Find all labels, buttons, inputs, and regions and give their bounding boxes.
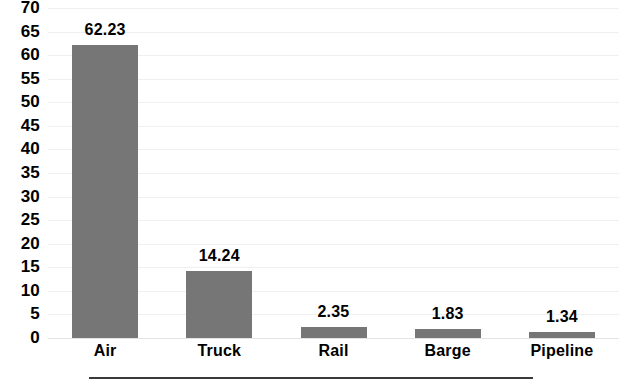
y-axis: 7065605550454035302520151050 bbox=[0, 0, 46, 386]
bar-value-label: 1.34 bbox=[546, 308, 578, 326]
bar[interactable] bbox=[186, 271, 252, 338]
bar-group[interactable]: 62.23 bbox=[72, 8, 138, 338]
bar-value-label: 62.23 bbox=[85, 21, 126, 39]
y-tick-label: 35 bbox=[21, 163, 40, 183]
x-tick-label: Rail bbox=[318, 342, 348, 360]
bottom-rule bbox=[89, 377, 533, 379]
y-tick-label: 40 bbox=[21, 139, 40, 159]
bar[interactable] bbox=[72, 45, 138, 338]
bar-group[interactable]: 1.34 bbox=[529, 8, 595, 338]
y-tick-label: 15 bbox=[21, 257, 40, 277]
plot-area: 62.2314.242.351.831.34 bbox=[48, 8, 619, 338]
bars-layer: 62.2314.242.351.831.34 bbox=[48, 8, 619, 338]
bar-group[interactable]: 1.83 bbox=[415, 8, 481, 338]
y-tick-label: 0 bbox=[30, 328, 40, 348]
bar-group[interactable]: 14.24 bbox=[186, 8, 252, 338]
y-tick-label: 20 bbox=[21, 234, 40, 254]
x-tick-label: Barge bbox=[425, 342, 471, 360]
x-tick-label: Air bbox=[94, 342, 117, 360]
y-tick-label: 60 bbox=[21, 45, 40, 65]
x-tick-label: Pipeline bbox=[530, 342, 593, 360]
y-tick-label: 5 bbox=[30, 304, 40, 324]
x-axis: AirTruckRailBargePipeline bbox=[48, 340, 619, 370]
y-tick-label: 45 bbox=[21, 116, 40, 136]
bar-group[interactable]: 2.35 bbox=[301, 8, 367, 338]
bar-chart: 7065605550454035302520151050 62.2314.242… bbox=[0, 0, 629, 386]
y-tick-label: 10 bbox=[21, 281, 40, 301]
bar-value-label: 14.24 bbox=[199, 247, 240, 265]
y-tick-label: 30 bbox=[21, 187, 40, 207]
y-tick-label: 70 bbox=[21, 0, 40, 18]
y-tick-label: 50 bbox=[21, 92, 40, 112]
y-tick-label: 65 bbox=[21, 22, 40, 42]
bar[interactable] bbox=[415, 329, 481, 338]
bar[interactable] bbox=[529, 332, 595, 338]
bar-value-label: 1.83 bbox=[432, 305, 464, 323]
y-tick-label: 55 bbox=[21, 69, 40, 89]
y-tick-label: 25 bbox=[21, 210, 40, 230]
bar[interactable] bbox=[301, 327, 367, 338]
axis-baseline bbox=[48, 338, 619, 339]
x-tick-label: Truck bbox=[197, 342, 241, 360]
bar-value-label: 2.35 bbox=[318, 303, 350, 321]
